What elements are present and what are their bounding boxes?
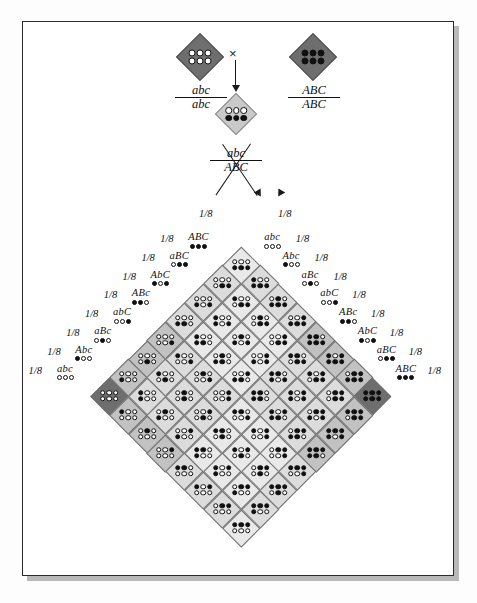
allele-dot-row — [175, 353, 193, 358]
allele-dot-row — [307, 378, 325, 383]
open-allele-dot — [163, 447, 168, 452]
filled-allele-dot — [177, 262, 182, 267]
filled-allele-dot — [144, 428, 149, 433]
open-allele-dot — [251, 321, 256, 326]
open-allele-dot — [213, 434, 218, 439]
allele-dot-row — [251, 353, 269, 358]
filled-allele-dot — [288, 397, 293, 402]
open-allele-dot — [207, 334, 212, 339]
open-allele-dot — [257, 434, 262, 439]
allele-dot-row — [194, 334, 212, 339]
open-allele-dot — [238, 528, 243, 533]
filled-allele-dot — [370, 397, 375, 402]
allele-dot-row — [213, 284, 231, 289]
open-allele-dot — [201, 453, 206, 458]
open-allele-dot — [301, 434, 306, 439]
filled-allele-dot — [314, 453, 319, 458]
open-allele-dot — [182, 472, 187, 477]
filled-allele-dot — [196, 244, 201, 249]
filled-allele-dot — [245, 447, 250, 452]
allele-dot-row — [288, 428, 306, 433]
gamete-genotype-text: ABC — [188, 232, 209, 243]
open-allele-dot — [125, 416, 130, 421]
allele-dot-row — [326, 397, 344, 402]
allele-dot-row — [175, 359, 193, 364]
gamete-genotype-text: abC — [113, 307, 131, 318]
gamete-genotype-text: abc — [264, 232, 281, 243]
allele-dot-grid — [326, 353, 344, 364]
filled-allele-dot — [219, 428, 224, 433]
gamete-genotype-text: AbC — [358, 326, 378, 337]
open-allele-dot — [288, 472, 293, 477]
open-allele-dot — [232, 334, 237, 339]
allele-dot-row — [270, 378, 288, 383]
filled-allele-dot — [164, 281, 169, 286]
filled-allele-dot — [251, 397, 256, 402]
gamete-label-left-2: AbC — [151, 270, 171, 287]
open-allele-dot — [163, 453, 168, 458]
filled-allele-dot — [194, 303, 199, 308]
filled-allele-dot — [201, 340, 206, 345]
open-allele-dot — [282, 416, 287, 421]
filled-allele-dot — [238, 265, 243, 270]
filled-allele-dot — [307, 334, 312, 339]
allele-dot-row — [194, 416, 212, 421]
open-allele-dot — [320, 453, 325, 458]
allele-dot-grid — [270, 447, 288, 458]
gamete-dot-row — [395, 375, 416, 380]
filled-allele-dot — [226, 284, 231, 289]
allele-dot-grid — [232, 334, 250, 345]
open-allele-dot — [321, 300, 326, 305]
open-allele-dot — [132, 378, 137, 383]
filled-allele-dot — [339, 428, 344, 433]
filled-allele-dot — [263, 428, 268, 433]
gamete-frequency-left-2: 1/8 — [123, 271, 136, 282]
allele-dot-row — [307, 340, 325, 345]
gamete-dot-row — [339, 319, 357, 324]
open-allele-dot — [188, 353, 193, 358]
filled-allele-dot — [163, 378, 168, 383]
gamete-genotype-text: aBC — [377, 345, 397, 356]
allele-dot-row — [194, 491, 212, 496]
gamete-frequency-left-4: 1/8 — [85, 308, 98, 319]
open-allele-dot — [188, 321, 193, 326]
open-allele-dot — [276, 453, 281, 458]
gamete-label-left-6: Abc — [75, 345, 92, 362]
open-allele-dot — [295, 472, 300, 477]
open-allele-dot — [232, 303, 237, 308]
open-allele-dot — [226, 359, 231, 364]
allele-dot-row — [157, 334, 175, 339]
open-allele-dot — [182, 434, 187, 439]
filled-allele-dot — [390, 356, 395, 361]
open-allele-dot — [270, 447, 275, 452]
allele-dot-row — [307, 447, 325, 452]
filled-allele-dot — [251, 510, 256, 515]
open-allele-dot — [226, 353, 231, 358]
allele-dot-row — [232, 259, 250, 264]
open-allele-dot — [163, 340, 168, 345]
filled-allele-dot — [232, 265, 237, 270]
filled-allele-dot — [270, 303, 275, 308]
allele-dot-row — [194, 447, 212, 452]
allele-dot-row — [270, 334, 288, 339]
filled-allele-dot — [232, 378, 237, 383]
allele-dot-grid — [119, 372, 137, 383]
allele-dot-row — [157, 340, 175, 345]
gamete-label-right-1: Abc — [283, 251, 300, 268]
open-allele-dot — [188, 434, 193, 439]
gamete-frequency-right-7: 1/8 — [427, 365, 440, 376]
open-allele-dot — [245, 528, 250, 533]
allele-dot-grid — [194, 372, 212, 383]
allele-dot-grid — [251, 391, 269, 402]
gamete-dot-row — [151, 281, 171, 286]
allele-dot-grid — [175, 391, 193, 402]
open-allele-dot — [175, 472, 180, 477]
allele-dot-row — [119, 416, 137, 421]
allele-dot-grid — [288, 353, 306, 364]
open-allele-dot — [295, 262, 300, 267]
allele-dot-grid — [345, 372, 363, 383]
gamete-dot-row — [283, 262, 300, 267]
open-allele-dot — [138, 434, 143, 439]
punnett-square: ABC1/8abc1/8aBC1/8Abc1/8AbC1/8aBc1/8ABc1… — [23, 22, 453, 575]
open-allele-dot — [288, 428, 293, 433]
